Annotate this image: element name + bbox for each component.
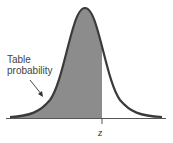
arrow-head-icon <box>38 91 43 97</box>
annotation-label-line2: probability <box>7 65 53 76</box>
z-label: z <box>98 126 102 138</box>
annotation-label-line1: Table <box>7 54 31 65</box>
shaded-area <box>10 8 162 118</box>
